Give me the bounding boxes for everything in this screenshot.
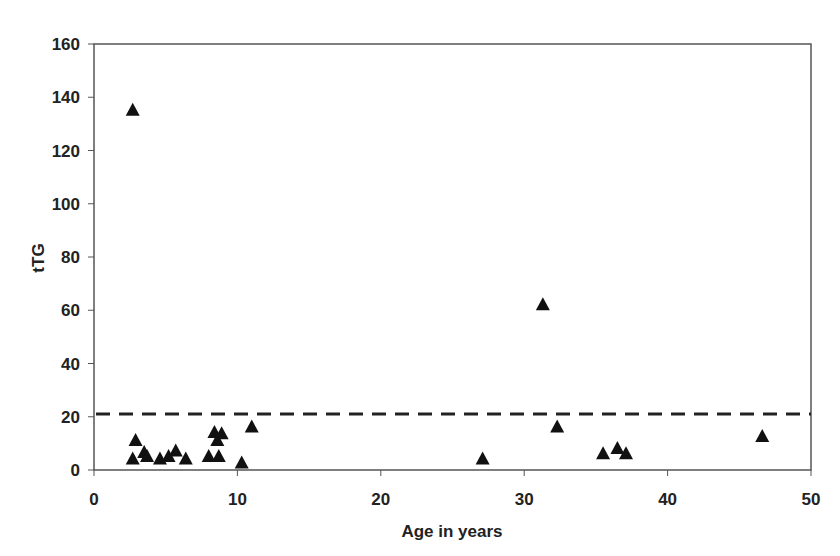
scatter-chart: 020406080100120140160 01020304050 Age in… (0, 0, 840, 556)
y-tick-label: 20 (61, 408, 80, 427)
y-tick-label: 40 (61, 355, 80, 374)
y-tick-label: 140 (52, 88, 80, 107)
y-tick-label: 0 (71, 461, 80, 480)
x-tick-label: 50 (802, 490, 821, 509)
y-tick-label: 160 (52, 35, 80, 54)
y-tick-label: 60 (61, 301, 80, 320)
x-axis: 01020304050 (89, 470, 820, 509)
x-tick-label: 20 (371, 490, 390, 509)
plot-area (94, 44, 811, 470)
x-tick-label: 10 (228, 490, 247, 509)
x-axis-title: Age in years (401, 522, 502, 541)
x-tick-label: 30 (515, 490, 534, 509)
y-tick-label: 120 (52, 142, 80, 161)
x-tick-label: 40 (658, 490, 677, 509)
y-axis: 020406080100120140160 (52, 35, 94, 480)
y-tick-label: 80 (61, 248, 80, 267)
x-tick-label: 0 (89, 490, 98, 509)
y-tick-label: 100 (52, 195, 80, 214)
y-axis-title: tTG (29, 243, 48, 272)
